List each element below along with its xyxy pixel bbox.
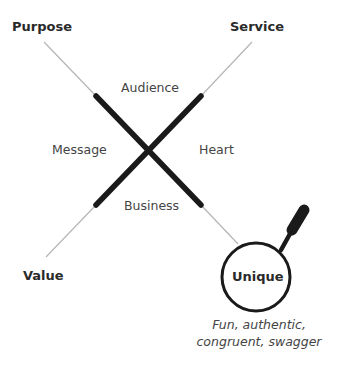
caption-line-1: Fun, authentic, bbox=[188, 316, 330, 333]
thin-line-value bbox=[46, 205, 96, 257]
caption-line-2: congruent, swagger bbox=[188, 333, 330, 350]
thin-line-unique bbox=[201, 205, 238, 244]
label-purpose: Purpose bbox=[12, 19, 72, 34]
label-message: Message bbox=[52, 142, 107, 157]
label-heart: Heart bbox=[199, 142, 234, 157]
label-value: Value bbox=[23, 268, 64, 283]
label-business: Business bbox=[124, 198, 179, 213]
thin-line-purpose bbox=[44, 42, 96, 96]
label-service: Service bbox=[230, 19, 284, 34]
thin-line-service bbox=[201, 42, 252, 96]
unique-caption: Fun, authentic, congruent, swagger bbox=[188, 316, 330, 350]
cross-diagram bbox=[0, 0, 342, 365]
magnifier-icon bbox=[222, 210, 304, 311]
label-unique: Unique bbox=[232, 269, 284, 284]
label-audience: Audience bbox=[121, 80, 179, 95]
